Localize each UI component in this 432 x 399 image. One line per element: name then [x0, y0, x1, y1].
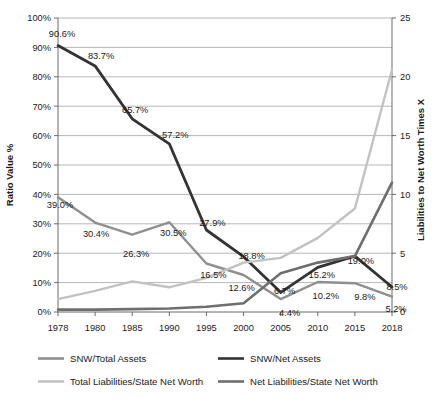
- y-tick-label: 100%: [27, 13, 51, 23]
- y-tick-label: 60%: [32, 131, 51, 141]
- y2-tick-label: 15: [400, 131, 410, 141]
- line-chart: 0%10%20%30%40%50%60%70%80%90%100% 051015…: [0, 0, 432, 399]
- data-point-label: 5.2%: [385, 304, 406, 314]
- x-axis-tick-labels: 1978198019851990199520002005201020152018: [48, 312, 403, 333]
- x-tick-label: 1995: [196, 323, 217, 333]
- y2-tick-label: 25: [400, 13, 410, 23]
- data-point-label: 4.4%: [279, 308, 300, 318]
- data-point-label: 18.8%: [238, 251, 264, 261]
- y2-tick-label: 10: [400, 190, 410, 200]
- legend-label: SNW/Total Assets: [70, 353, 146, 364]
- data-point-label: 83.7%: [88, 51, 114, 61]
- data-point-label: 19.0%: [348, 256, 374, 266]
- data-point-label: 26.3%: [123, 249, 149, 259]
- y-tick-label: 80%: [32, 72, 51, 82]
- y-axis-title: Ratio Value %: [4, 143, 15, 206]
- y-tick-label: 90%: [32, 43, 51, 53]
- data-point-label: 39.0%: [47, 200, 73, 210]
- x-tick-label: 2000: [233, 323, 254, 333]
- x-tick-label: 2018: [382, 323, 403, 333]
- series-line: [58, 197, 392, 299]
- y-tick-label: 70%: [32, 102, 51, 112]
- data-point-label: 65.7%: [122, 105, 148, 115]
- x-tick-label: 1978: [48, 323, 69, 333]
- legend-label: SNW/Net Assets: [250, 353, 321, 364]
- series-line: [58, 70, 392, 299]
- data-point-label: 8.5%: [386, 282, 407, 292]
- legend-label: Total Liabilities/State Net Worth: [70, 376, 203, 387]
- x-tick-label: 2010: [307, 323, 328, 333]
- secondary-y-axis-title: Liabilities to Net Worth Times X: [415, 98, 426, 241]
- x-tick-label: 2005: [270, 323, 291, 333]
- y2-tick-label: 20: [400, 72, 410, 82]
- y2-tick-label: 5: [400, 249, 405, 259]
- series-line: [58, 46, 392, 293]
- chart-legend: SNW/Total AssetsSNW/Net AssetsTotal Liab…: [38, 353, 378, 387]
- y-tick-label: 10%: [32, 278, 51, 288]
- secondary-y-axis-tick-labels: 0510152025: [392, 13, 410, 317]
- data-point-label: 16.5%: [200, 270, 226, 280]
- legend-label: Net Liabilities/State Net Worth: [250, 376, 378, 387]
- y-tick-label: 0%: [38, 307, 51, 317]
- y-tick-label: 30%: [32, 219, 51, 229]
- data-point-label: 27.9%: [199, 218, 225, 228]
- x-tick-label: 1980: [85, 323, 106, 333]
- data-point-label: 12.6%: [228, 283, 254, 293]
- data-point-label: 9.8%: [354, 292, 375, 302]
- x-tick-label: 1985: [122, 323, 143, 333]
- data-point-label: 57.2%: [162, 130, 188, 140]
- y-tick-label: 40%: [32, 190, 51, 200]
- data-point-label: 90.6%: [49, 29, 75, 39]
- x-tick-label: 2015: [345, 323, 366, 333]
- chart-container: 0%10%20%30%40%50%60%70%80%90%100% 051015…: [0, 0, 432, 399]
- data-point-label: 30.5%: [160, 228, 186, 238]
- series-line: [58, 183, 392, 310]
- x-tick-label: 1990: [159, 323, 180, 333]
- y-tick-label: 20%: [32, 249, 51, 259]
- y-tick-label: 50%: [32, 160, 51, 170]
- data-point-label: 15.2%: [309, 270, 335, 280]
- y-axis-tick-labels: 0%10%20%30%40%50%60%70%80%90%100%: [27, 13, 51, 317]
- data-point-label: 6.7%: [274, 286, 295, 296]
- data-point-label: 30.4%: [83, 229, 109, 239]
- data-point-label: 10.2%: [313, 291, 339, 301]
